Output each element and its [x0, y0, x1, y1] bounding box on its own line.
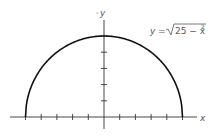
x-axis-label: x [199, 113, 206, 123]
svg-text:y: y [149, 26, 156, 36]
equation-label: y = 25 − x 2 [149, 23, 206, 36]
svg-text:2: 2 [201, 23, 205, 30]
y-axis-minus-mark: - [96, 9, 99, 17]
chart: x y - y = 25 − x 2 [0, 0, 219, 139]
y-axis-label: y [99, 8, 106, 18]
svg-text:=: = [158, 26, 166, 36]
